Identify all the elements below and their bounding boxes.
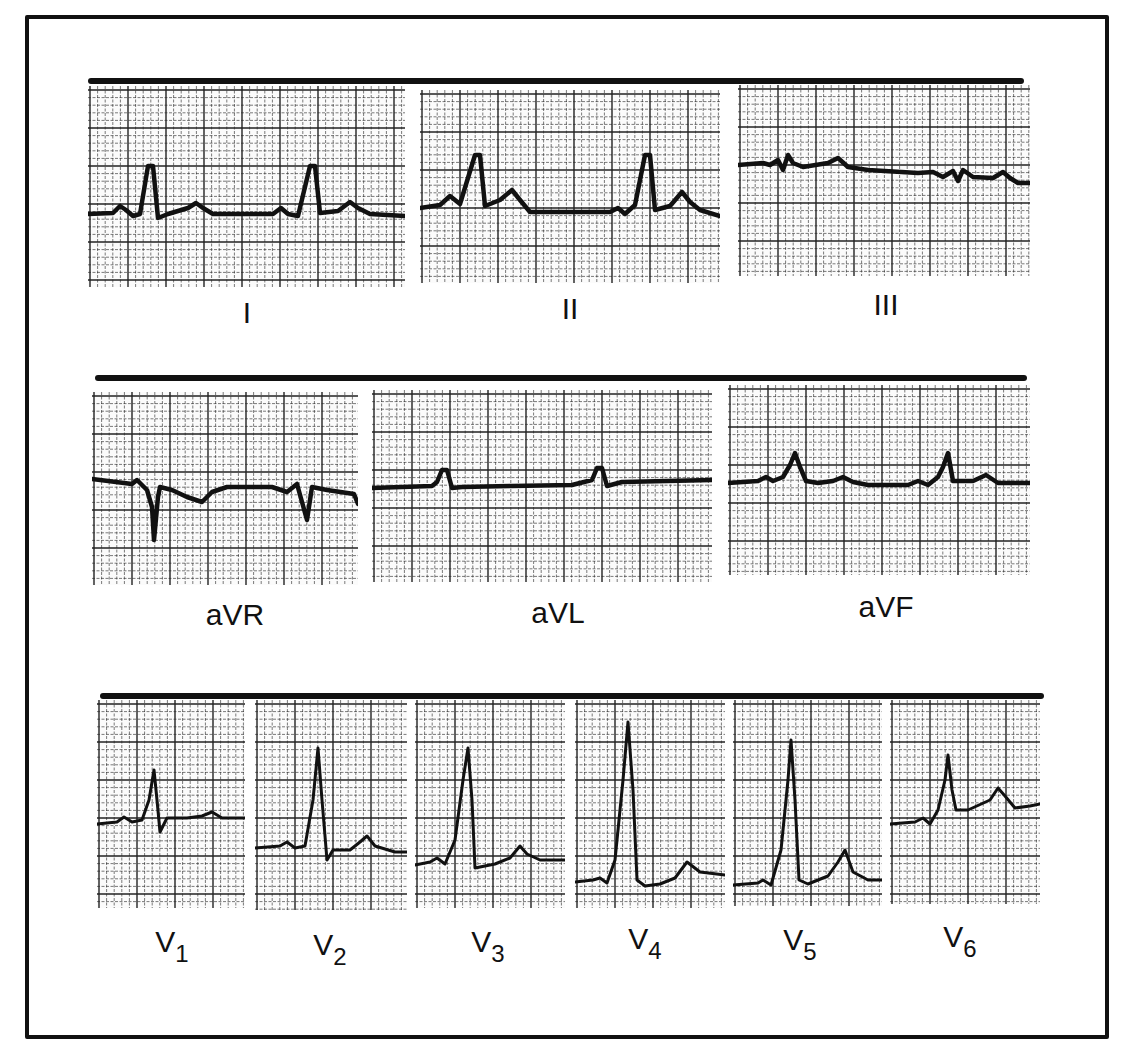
ecg-trace-lead-aVL xyxy=(372,390,712,582)
ecg-trace-lead-V5 xyxy=(733,700,882,906)
ecg-trace-lead-V3 xyxy=(415,700,565,908)
lead-letter: V xyxy=(155,925,175,958)
ecg-trace-lead-V4 xyxy=(575,700,725,908)
ecg-strip-lead-V5 xyxy=(733,700,882,906)
ecg-strip-lead-aVF xyxy=(728,385,1030,575)
lead-number: 2 xyxy=(333,943,346,970)
ecg-strip-lead-V2 xyxy=(255,700,407,910)
lead-letter: V xyxy=(628,922,648,955)
ecg-trace-lead-III xyxy=(738,85,1030,276)
lead-number: 4 xyxy=(648,937,661,964)
ecg-trace-lead-aVF xyxy=(728,385,1030,575)
ecg-strip-lead-aVR xyxy=(92,392,358,585)
ecg-strip-lead-V4 xyxy=(575,700,725,908)
lead-letter: V xyxy=(313,928,333,961)
ecg-strip-lead-aVL xyxy=(372,390,712,582)
ecg-trace-lead-V1 xyxy=(97,700,245,908)
lead-label-aVL: aVL xyxy=(498,596,618,630)
ecg-trace-lead-II xyxy=(420,90,720,283)
ecg-strip-lead-III xyxy=(738,85,1030,276)
lead-letter: V xyxy=(471,925,491,958)
ecg-trace-lead-V2 xyxy=(255,700,407,910)
ecg-strip-lead-I xyxy=(88,86,405,287)
lead-label-V6: V6 xyxy=(900,920,1020,963)
lead-label-II: II xyxy=(510,292,630,326)
ecg-trace-lead-aVR xyxy=(92,392,358,585)
lead-label-V1: V1 xyxy=(112,925,232,968)
ecg-strip-lead-V6 xyxy=(890,700,1040,904)
lead-number: 5 xyxy=(803,938,816,965)
lead-label-V4: V4 xyxy=(585,922,705,965)
ecg-strip-lead-V3 xyxy=(415,700,565,908)
lead-letter: V xyxy=(783,923,803,956)
lead-label-V2: V2 xyxy=(270,928,390,971)
lead-label-aVR: aVR xyxy=(175,598,295,632)
row-3-top-bar xyxy=(100,693,1044,699)
lead-number: 6 xyxy=(963,935,976,962)
lead-label-aVF: aVF xyxy=(826,590,946,624)
lead-label-V3: V3 xyxy=(428,925,548,968)
lead-label-III: III xyxy=(826,288,946,322)
row-2-top-bar xyxy=(95,375,1027,381)
lead-number: 3 xyxy=(491,940,504,967)
lead-number: 1 xyxy=(175,940,188,967)
lead-label-V5: V5 xyxy=(740,923,860,966)
ecg-trace-lead-I xyxy=(88,86,405,287)
ecg-strip-lead-II xyxy=(420,90,720,283)
lead-label-I: I xyxy=(187,296,307,330)
lead-letter: V xyxy=(943,920,963,953)
row-1-top-bar xyxy=(88,78,1024,84)
ecg-strip-lead-V1 xyxy=(97,700,245,908)
ecg-trace-lead-V6 xyxy=(890,700,1040,904)
